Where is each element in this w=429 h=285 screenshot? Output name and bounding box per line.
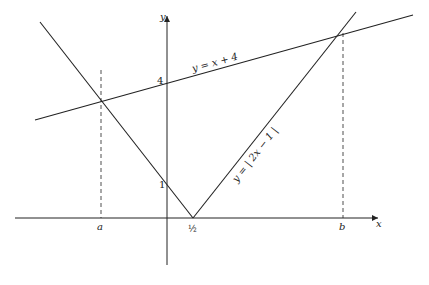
line-y-equals-x-plus-4 [35,15,413,120]
tick-x-a: a [97,221,103,232]
x-axis-label: x [376,218,382,229]
tick-y-4: 4 [157,75,163,86]
y-axis-label: y [159,11,166,22]
diagram-canvas: y x 4 1 a ½ b y = x + 4 y = | 2x − 1 | [0,0,429,285]
abs-right-branch [193,12,356,218]
label-abs-2x-minus-1: y = | 2x − 1 | [229,125,280,186]
tick-x-b: b [339,221,345,232]
tick-x-half: ½ [188,224,197,234]
abs-left-branch [40,22,193,218]
tick-y-1: 1 [159,179,165,190]
